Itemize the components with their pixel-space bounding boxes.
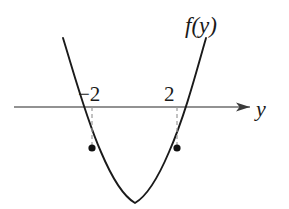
parabola-plot-svg: −2 2 f(y) y: [0, 0, 289, 209]
axis-label-y: y: [254, 96, 266, 121]
tick-label-minus-two: −2: [78, 82, 100, 106]
marked-point-left: [88, 144, 95, 151]
graph-figure: −2 2 f(y) y: [0, 0, 289, 209]
plot-background: [0, 0, 289, 209]
curve-label-f-of-y: f(y): [185, 13, 217, 38]
marked-point-right: [173, 144, 180, 151]
tick-label-two: 2: [164, 82, 175, 106]
